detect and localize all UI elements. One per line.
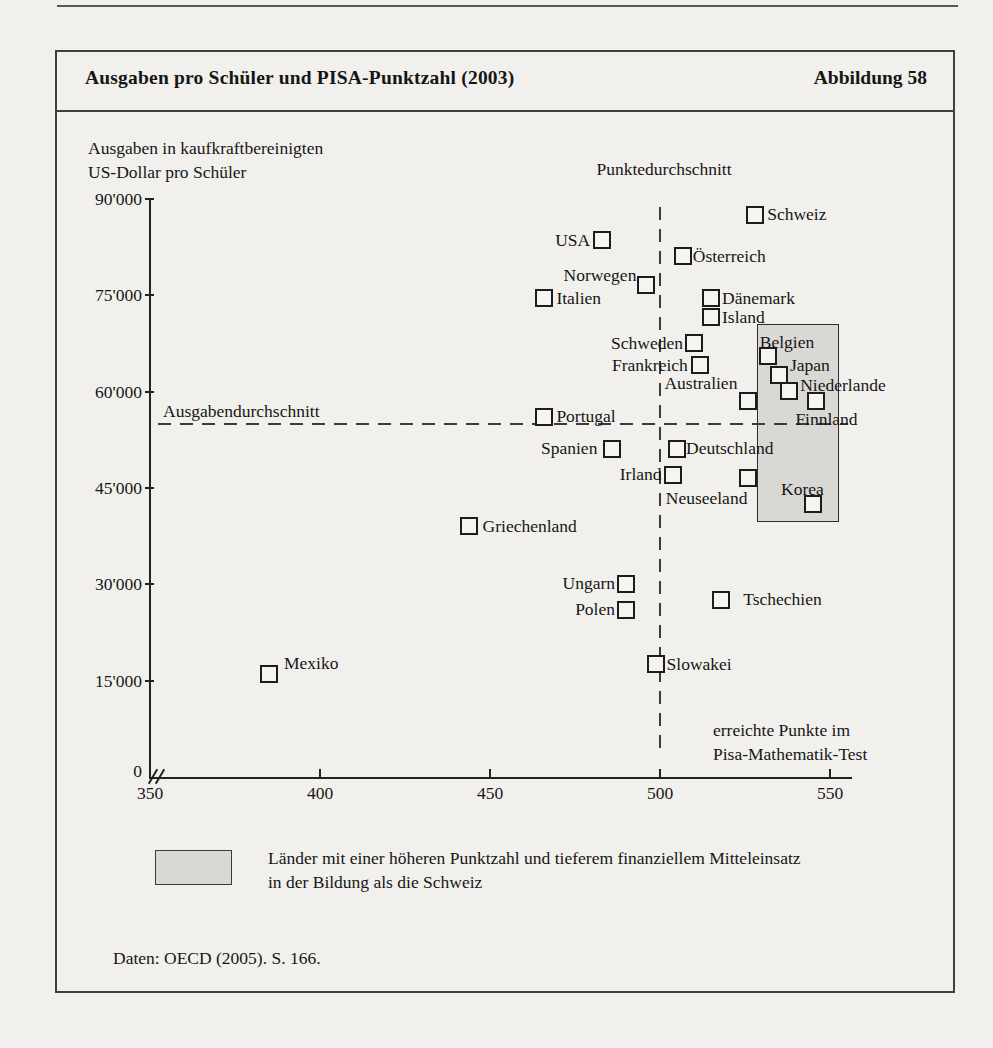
x-tick-label: 400 xyxy=(307,783,333,803)
data-point-label: Italien xyxy=(556,288,601,309)
score-mean-label: Punktedurchschnitt xyxy=(596,159,731,180)
y-axis-title: Ausgaben in kaufkraftbereinigten US-Doll… xyxy=(88,136,323,184)
legend-text: Länder mit einer höheren Punktzahl und t… xyxy=(268,847,801,894)
data-point-square xyxy=(668,440,686,458)
x-axis-title-line1: erreichte Punkte im xyxy=(713,718,867,742)
y-tick xyxy=(145,198,154,200)
y-tick xyxy=(145,391,154,393)
data-point-label: Neuseeland xyxy=(666,488,748,509)
x-tick-label: 450 xyxy=(477,783,503,803)
page-top-rule xyxy=(57,5,958,7)
data-point-label: Japan xyxy=(790,355,830,376)
data-point-square xyxy=(535,408,553,426)
x-tick xyxy=(319,769,321,777)
legend-swatch xyxy=(155,850,232,885)
data-point-square xyxy=(637,276,655,294)
y-tick-label: 75'000 xyxy=(80,285,142,305)
y-tick xyxy=(145,583,154,585)
data-point-square xyxy=(664,466,682,484)
data-point-label: Schweiz xyxy=(767,204,826,225)
data-point-square xyxy=(593,231,611,249)
y-tick-label: 60'000 xyxy=(80,382,142,402)
data-point-square xyxy=(603,440,621,458)
x-tick-label: 500 xyxy=(647,783,673,803)
data-point-square xyxy=(617,601,635,619)
data-point-label: Spanien xyxy=(541,438,597,459)
data-point-square xyxy=(702,308,720,326)
data-point-label: Deutschland xyxy=(686,438,773,459)
x-tick xyxy=(829,769,831,777)
y-tick-label: 15'000 xyxy=(80,671,142,691)
mean-line-horizontal xyxy=(158,423,848,425)
data-point-label: Norwegen xyxy=(564,265,637,286)
y-axis-title-line2: US-Dollar pro Schüler xyxy=(88,160,323,184)
x-axis-title-line2: Pisa-Mathematik-Test xyxy=(713,742,867,766)
x-tick xyxy=(489,769,491,777)
x-axis-line xyxy=(149,777,852,779)
data-point-label: Griechenland xyxy=(483,516,577,537)
y-tick-label: 0 xyxy=(80,761,142,781)
source-text: Daten: OECD (2005). S. 166. xyxy=(113,948,321,969)
y-tick-label: 45'000 xyxy=(80,478,142,498)
data-point-label: Belgien xyxy=(760,332,814,353)
data-point-square xyxy=(739,469,757,487)
figure-box: Ausgaben pro Schüler und PISA-Punktzahl … xyxy=(55,50,955,993)
data-point-label: Dänemark xyxy=(722,288,795,309)
data-point-label: Australien xyxy=(664,373,737,394)
data-point-label: Slowakei xyxy=(667,654,732,675)
data-point-square xyxy=(702,289,720,307)
data-point-label: USA xyxy=(555,230,590,251)
y-tick xyxy=(145,487,154,489)
data-point-square xyxy=(460,517,478,535)
data-point-label: Polen xyxy=(575,599,615,620)
data-point-label: Österreich xyxy=(693,246,766,267)
data-point-square xyxy=(617,575,635,593)
data-point-label: Irland xyxy=(620,464,662,485)
data-point-square xyxy=(739,392,757,410)
data-point-square xyxy=(712,591,730,609)
y-axis-line xyxy=(149,199,151,779)
x-tick xyxy=(659,769,661,777)
y-tick xyxy=(145,680,154,682)
y-tick-label: 30'000 xyxy=(80,574,142,594)
data-point-square xyxy=(674,247,692,265)
legend-text-line2: in der Bildung als die Schweiz xyxy=(268,871,801,895)
y-axis-title-line1: Ausgaben in kaufkraftbereinigten xyxy=(88,136,323,160)
data-point-square xyxy=(780,382,798,400)
data-point-square xyxy=(746,206,764,224)
y-tick-label: 90'000 xyxy=(80,189,142,209)
legend-text-line1: Länder mit einer höheren Punktzahl und t… xyxy=(268,847,801,871)
data-point-square xyxy=(691,356,709,374)
y-tick xyxy=(145,294,154,296)
data-point-label: Schweden xyxy=(611,333,683,354)
data-point-label: Mexiko xyxy=(284,653,338,674)
data-point-label: Portugal xyxy=(556,406,615,427)
x-axis-title: erreichte Punkte im Pisa-Mathematik-Test xyxy=(713,718,867,766)
data-point-square xyxy=(535,289,553,307)
data-point-square xyxy=(260,665,278,683)
data-point-label: Tschechien xyxy=(743,589,821,610)
data-point-square xyxy=(647,655,665,673)
data-point-label: Niederlande xyxy=(800,375,886,396)
data-point-label: Korea xyxy=(781,479,824,500)
data-point-square xyxy=(685,334,703,352)
data-point-label: Finnland xyxy=(795,409,857,430)
spending-mean-label: Ausgabendurchschnitt xyxy=(163,401,320,422)
data-point-label: Ungarn xyxy=(563,573,615,594)
x-tick-label: 550 xyxy=(817,783,843,803)
x-tick-label: 350 xyxy=(137,783,163,803)
data-point-label: Island xyxy=(722,307,765,328)
